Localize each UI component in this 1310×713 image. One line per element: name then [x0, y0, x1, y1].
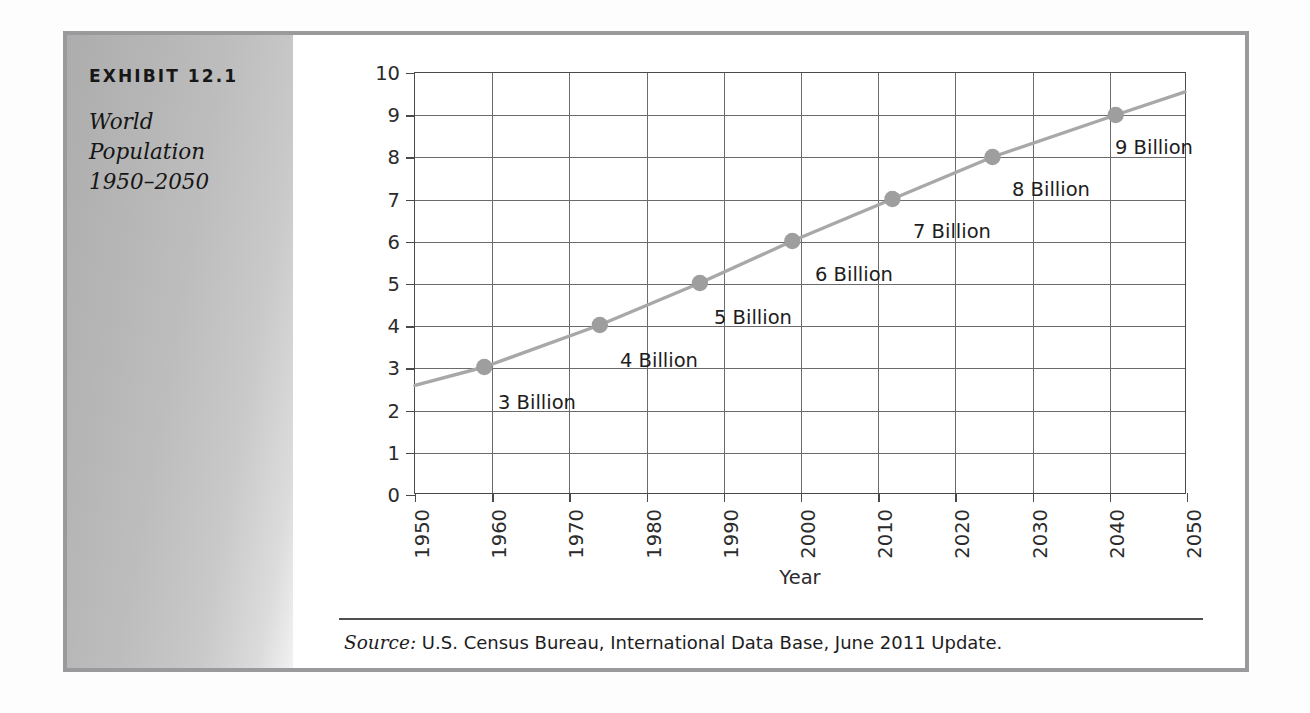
x-axis-tick-label: 2020: [951, 509, 974, 559]
exhibit-title-line-3: 1950–2050: [89, 167, 279, 197]
y-axis-tick-label: 7: [388, 188, 400, 211]
x-axis-tick: [801, 493, 802, 502]
y-axis-tick-label: 0: [388, 484, 400, 507]
exhibit-title: World Population 1950–2050: [89, 107, 279, 197]
point-annotation-label: 9 Billion: [1115, 136, 1193, 159]
x-axis-tick: [569, 493, 570, 502]
y-axis-tick-label: 1: [388, 441, 400, 464]
x-axis-tick-label: 1950: [411, 509, 434, 559]
y-axis-tick-label: 10: [375, 62, 400, 85]
y-axis-tick: [406, 495, 415, 496]
chart-area: Population (billions) 012345678910 19501…: [293, 35, 1245, 668]
data-point-marker: [784, 233, 800, 249]
x-axis-tick-label: 1960: [488, 509, 511, 559]
exhibit-number-label: EXHIBIT 12.1: [89, 66, 238, 86]
data-point-marker: [984, 149, 1000, 165]
exhibit-caption-panel: EXHIBIT 12.1 World Population 1950–2050: [67, 35, 293, 668]
y-axis-tick: [406, 73, 415, 74]
x-axis-tick-label: 1990: [719, 509, 742, 559]
y-axis-tick: [406, 200, 415, 201]
exhibit-title-line-1: World: [89, 107, 279, 137]
y-axis-tick: [406, 284, 415, 285]
x-axis-tick-label: 2010: [874, 509, 897, 559]
x-axis-tick: [647, 493, 648, 502]
y-axis-tick-label: 8: [388, 146, 400, 169]
source-note: Source: U.S. Census Bureau, Internationa…: [344, 632, 1002, 653]
x-axis-tick-label: 1980: [642, 509, 665, 559]
x-axis-tick-label: 1970: [565, 509, 588, 559]
x-axis-tick-label: 2050: [1183, 509, 1206, 559]
x-axis-title: Year: [414, 566, 1186, 589]
y-axis-tick-label: 4: [388, 315, 400, 338]
y-axis-tick: [406, 115, 415, 116]
point-annotation-label: 5 Billion: [714, 306, 792, 329]
y-axis-tick: [406, 242, 415, 243]
y-axis-tick: [406, 453, 415, 454]
x-axis-tick: [415, 493, 416, 502]
x-axis-tick: [955, 493, 956, 502]
point-annotation-label: 3 Billion: [498, 391, 576, 414]
source-label: Source:: [344, 632, 416, 653]
plot-area: 012345678910 195019601970198019902000201…: [414, 72, 1186, 494]
y-axis-tick: [406, 326, 415, 327]
y-axis-tick: [406, 157, 415, 158]
point-annotation-label: 4 Billion: [620, 349, 698, 372]
y-axis-tick-label: 3: [388, 357, 400, 380]
point-annotation-label: 6 Billion: [815, 263, 893, 286]
y-axis-tick: [406, 411, 415, 412]
x-axis-tick: [1033, 493, 1034, 502]
source-text: U.S. Census Bureau, International Data B…: [422, 632, 1002, 653]
data-point-marker: [1108, 107, 1124, 123]
y-axis-tick: [406, 368, 415, 369]
data-point-marker: [592, 317, 608, 333]
exhibit-frame: EXHIBIT 12.1 World Population 1950–2050 …: [63, 31, 1249, 672]
data-point-marker: [476, 359, 492, 375]
data-point-marker: [692, 275, 708, 291]
y-axis-tick-label: 5: [388, 273, 400, 296]
scan-page: EXHIBIT 12.1 World Population 1950–2050 …: [0, 0, 1310, 713]
x-axis-tick-label: 2000: [797, 509, 820, 559]
exhibit-title-line-2: Population: [89, 137, 279, 167]
x-axis-tick: [1187, 493, 1188, 502]
data-point-marker: [884, 191, 900, 207]
y-axis-tick-label: 2: [388, 399, 400, 422]
point-annotation-label: 7 Billion: [913, 220, 991, 243]
source-divider: [339, 618, 1203, 620]
x-axis-tick-label: 2030: [1028, 509, 1051, 559]
x-axis-tick: [724, 493, 725, 502]
y-axis-tick-label: 6: [388, 230, 400, 253]
y-axis-tick-label: 9: [388, 104, 400, 127]
x-axis-tick: [1110, 493, 1111, 502]
x-axis-tick-label: 2040: [1105, 509, 1128, 559]
x-axis-tick: [878, 493, 879, 502]
x-axis-tick: [492, 493, 493, 502]
population-line-series: [415, 73, 1185, 493]
point-annotation-label: 8 Billion: [1012, 178, 1090, 201]
